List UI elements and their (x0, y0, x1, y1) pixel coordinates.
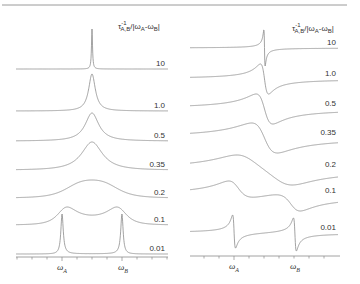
series-label-0.35: 0.35 (320, 128, 336, 137)
lineshape-curve-0.35 (16, 142, 168, 170)
series-label-1.0: 1.0 (325, 69, 337, 78)
exchange-lineshape-figure: 101.00.50.350.20.10.01 τ-1A,B/|ωA-ωB| ωA… (0, 0, 360, 284)
lineshape-curve-0.01 (16, 214, 168, 254)
lineshape-curve-0.2 (16, 180, 168, 198)
series-label-0.35: 0.35 (149, 160, 165, 169)
lineshape-curve-0.1 (16, 207, 168, 225)
series-label-0.01: 0.01 (149, 244, 165, 253)
left-panel-absorption: 101.00.50.350.20.10.01 τ-1A,B/|ωA-ωB| ωA… (16, 20, 168, 274)
left-axis-label-omega-b: ωB (118, 262, 128, 274)
lineshape-curve-10 (190, 30, 338, 66)
lineshape-curve-0.01 (190, 215, 338, 251)
right-legend-title: τ-1A,B/|ωA-ωB| (292, 22, 334, 34)
series-label-0.2: 0.2 (154, 188, 166, 197)
series-label-0.2: 0.2 (325, 160, 337, 169)
right-axis-label-omega-b: ωB (290, 261, 300, 273)
series-label-1.0: 1.0 (154, 101, 166, 110)
series-label-0.5: 0.5 (154, 131, 166, 140)
right-axis-label-omega-a: ωA (229, 261, 239, 273)
lineshape-curve-0.35 (190, 123, 338, 153)
left-x-ticks (17, 257, 167, 261)
series-label-0.01: 0.01 (320, 223, 336, 232)
series-label-0.5: 0.5 (325, 99, 337, 108)
left-axis-label-omega-a: ωA (57, 262, 67, 274)
series-label-0.1: 0.1 (325, 186, 337, 195)
lineshape-curve-0.1 (190, 181, 338, 211)
series-label-10: 10 (156, 59, 165, 68)
lineshape-curve-10 (16, 29, 168, 69)
left-legend-title: τ-1A,B/|ωA-ωB| (118, 20, 160, 32)
lineshape-curve-0.2 (190, 155, 338, 185)
series-label-10: 10 (327, 38, 336, 47)
left-curves (16, 29, 168, 254)
right-panel-dispersion: 101.00.50.350.20.10.01 τ-1A,B/|ωA-ωB| ωA… (190, 22, 340, 273)
lineshape-curve-1.0 (16, 74, 168, 111)
lineshape-curve-0.5 (190, 94, 338, 124)
right-x-ticks (204, 256, 324, 260)
series-label-0.1: 0.1 (154, 215, 166, 224)
lineshape-curve-1.0 (190, 64, 338, 94)
right-curves (190, 30, 338, 251)
lineshape-curve-0.5 (16, 113, 168, 141)
